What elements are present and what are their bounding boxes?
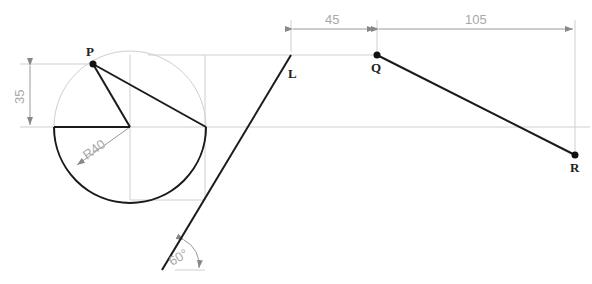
dimension-lines [30, 29, 573, 268]
dim-r40-text: R40 [80, 136, 108, 162]
point-p-marker [90, 61, 97, 68]
point-r-marker [572, 152, 579, 159]
dim-35-text: 35 [12, 90, 27, 104]
label-l: L [288, 66, 297, 81]
dim-45-text: 45 [325, 12, 339, 27]
label-p: P [86, 44, 94, 59]
label-r: R [570, 160, 580, 175]
dim-60-text: 60° [166, 246, 191, 269]
p-to-right [93, 64, 206, 127]
label-q: Q [371, 60, 381, 75]
point-q-marker [374, 52, 381, 59]
dim-105-text: 105 [465, 12, 487, 27]
line-l [162, 55, 291, 270]
q-to-r [377, 55, 575, 155]
object-lines [54, 55, 575, 270]
drawing-canvas: P L Q R 35 R40 45 105 60° [0, 0, 592, 284]
